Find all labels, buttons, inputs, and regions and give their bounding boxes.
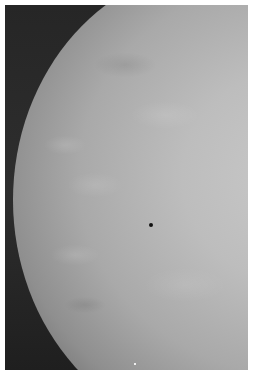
- tissue-texture: [5, 5, 248, 370]
- bright-speck: [134, 363, 136, 365]
- mammogram-image: [5, 5, 248, 370]
- marker-dot: [149, 223, 153, 227]
